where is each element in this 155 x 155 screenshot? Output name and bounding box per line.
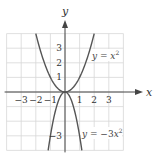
eq2-equals: = −3 (87, 129, 114, 139)
x-axis-arrow-icon (135, 89, 143, 95)
y-axis-label: y (61, 5, 69, 18)
equation-label-neg3x-squared: y = −3x2 (81, 127, 123, 139)
y-tick-label: 2 (56, 58, 62, 68)
parabola-chart: −3−2−1123321−3 x y y = x2 y = −3x2 (0, 0, 155, 155)
x-tick-label: −3 (15, 95, 29, 105)
eq1-equals: = (97, 51, 110, 61)
x-tick-label: −2 (29, 95, 42, 105)
eq1-exponent: 2 (115, 49, 119, 56)
x-tick-label: 3 (106, 95, 112, 105)
svg-text:y = −3x2: y = −3x2 (81, 127, 123, 139)
x-tick-label: 2 (91, 95, 97, 105)
x-tick-label: −1 (44, 95, 57, 105)
eq2-exponent: 2 (119, 127, 123, 134)
x-axis-label: x (146, 86, 153, 99)
y-tick-label: 1 (56, 72, 62, 82)
y-tick-label: 3 (56, 43, 62, 53)
equation-label-x-squared: y = x2 (91, 49, 121, 61)
y-tick-label: −3 (49, 131, 63, 141)
x-tick-label: 1 (77, 95, 83, 105)
svg-text:y = x2: y = x2 (91, 49, 119, 61)
y-axis-arrow-icon (62, 20, 68, 28)
